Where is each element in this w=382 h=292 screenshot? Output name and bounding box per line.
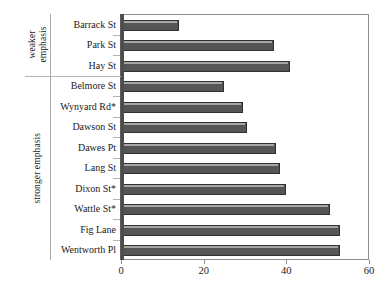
bar-row <box>121 159 369 180</box>
bar[interactable] <box>121 102 243 113</box>
x-tick-label: 60 <box>364 265 375 277</box>
group-label: weakeremphasis <box>24 14 50 76</box>
category-label: Wentworth Pl <box>61 240 116 261</box>
category-label: Lang St <box>85 158 116 179</box>
x-tick-mark <box>286 260 287 264</box>
bar[interactable] <box>121 61 290 72</box>
category-tick <box>113 96 120 97</box>
group-label: stronger emphasis <box>24 76 50 261</box>
bar[interactable] <box>121 163 280 174</box>
plot-area <box>121 14 369 260</box>
category-label: Hay St <box>89 55 117 76</box>
category-axis: Barrack StPark StHay StBelmore StWynyard… <box>50 14 121 260</box>
x-tick-label: 0 <box>118 265 123 277</box>
bar[interactable] <box>121 81 224 92</box>
bar-row <box>121 241 369 262</box>
bar[interactable] <box>121 143 276 154</box>
x-tick-label: 40 <box>281 265 292 277</box>
bar-row <box>121 179 369 200</box>
category-tick <box>113 178 120 179</box>
bar[interactable] <box>121 225 340 236</box>
category-label: Dixon St* <box>75 178 116 199</box>
category-tick <box>113 55 120 56</box>
group-separator <box>25 76 122 77</box>
bar[interactable] <box>121 122 247 133</box>
bar-row <box>121 220 369 241</box>
bar-row <box>121 97 369 118</box>
category-label: Park St <box>87 35 116 56</box>
bar[interactable] <box>121 245 340 256</box>
bar[interactable] <box>121 184 286 195</box>
bar-row <box>121 77 369 98</box>
category-label: Dawes Pt <box>78 137 116 158</box>
bar[interactable] <box>121 204 330 215</box>
bar-row <box>121 56 369 77</box>
bar-chart: weakeremphasisstronger emphasis Barrack … <box>0 0 382 292</box>
group-label-text: weakeremphasis <box>27 27 48 63</box>
category-label: Barrack St <box>74 14 117 35</box>
category-label: Wattle St* <box>74 199 116 220</box>
category-tick <box>113 219 120 220</box>
category-tick <box>113 137 120 138</box>
category-label: Fig Lane <box>80 219 116 240</box>
x-tick-mark <box>121 260 122 264</box>
category-label: Dawson St <box>72 117 116 138</box>
bar-row <box>121 138 369 159</box>
x-tick-mark <box>204 260 205 264</box>
x-tick-label: 20 <box>198 265 209 277</box>
bar-row <box>121 36 369 57</box>
category-tick <box>113 240 120 241</box>
category-tick <box>113 35 120 36</box>
group-label-text: stronger emphasis <box>32 132 43 203</box>
category-label: Belmore St <box>71 76 116 97</box>
bar-row <box>121 200 369 221</box>
category-tick <box>113 117 120 118</box>
x-tick-mark <box>369 260 370 264</box>
bar[interactable] <box>121 40 274 51</box>
x-axis: 0204060 <box>121 260 369 286</box>
plot-inner <box>121 15 368 259</box>
category-label: Wynyard Rd* <box>60 96 116 117</box>
bar-row <box>121 118 369 139</box>
bar[interactable] <box>121 20 179 31</box>
value-axis-line <box>121 14 124 260</box>
category-tick <box>113 199 120 200</box>
group-axis: weakeremphasisstronger emphasis <box>24 14 50 260</box>
category-tick <box>113 158 120 159</box>
bar-row <box>121 15 369 36</box>
